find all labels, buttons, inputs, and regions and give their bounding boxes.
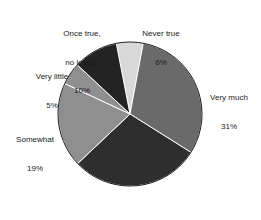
pie-label-never-true-text: Never true — [132, 29, 190, 39]
pie-label-very-much-percent: 31% — [199, 122, 259, 132]
pie-label-once-true-text-line1: Once true, — [49, 29, 115, 39]
pie-label-somewhat: Somewhat 19% — [4, 116, 66, 192]
pie-label-very-much: Very much 31% — [199, 74, 259, 150]
pie-label-never-true: Never true 6% — [132, 10, 190, 86]
pie-label-very-little-percent: 5% — [19, 101, 85, 111]
pie-label-never-true-percent: 6% — [132, 58, 190, 68]
pie-label-very-much-text: Very much — [199, 93, 259, 103]
pie-label-somewhat-text: Somewhat — [4, 135, 66, 145]
pie-label-quite-a-bit: Quite a bit — [108, 205, 188, 220]
pie-label-somewhat-percent: 19% — [4, 164, 66, 174]
pie-chart: Never true 6% Once true, no longer 10% V… — [0, 0, 261, 220]
pie-label-very-little-text: Very little — [19, 72, 85, 82]
